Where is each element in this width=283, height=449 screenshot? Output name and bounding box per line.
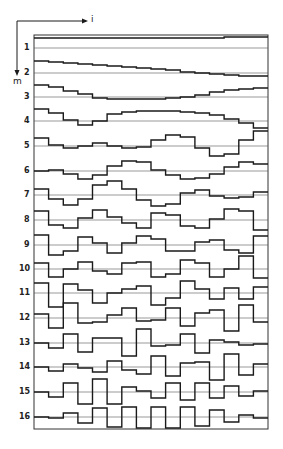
- step-curves: [34, 37, 268, 428]
- step-curve-row-16: [34, 407, 268, 428]
- step-curve-row-10: [34, 256, 268, 278]
- row-label-10: 10: [19, 264, 30, 273]
- row-label-6: 6: [24, 166, 30, 175]
- row-label-7: 7: [24, 190, 30, 199]
- step-curve-row-8: [34, 209, 268, 230]
- i-axis-arrowhead-icon: [82, 19, 88, 24]
- step-curve-row-5: [34, 131, 268, 156]
- row-label-2: 2: [24, 68, 30, 77]
- step-curve-row-2: [34, 61, 268, 76]
- row-label-1: 1: [24, 43, 30, 52]
- basis-functions-diagram: [0, 0, 283, 449]
- step-curve-row-13: [34, 329, 268, 356]
- row-label-14: 14: [19, 362, 30, 371]
- step-curve-row-12: [34, 303, 268, 331]
- row-label-4: 4: [24, 116, 30, 125]
- row-label-12: 12: [19, 313, 30, 322]
- row-label-3: 3: [24, 92, 30, 101]
- row-label-5: 5: [24, 141, 30, 150]
- row-label-16: 16: [19, 412, 30, 421]
- step-curve-row-15: [34, 379, 268, 404]
- row-label-9: 9: [24, 240, 30, 249]
- row-label-13: 13: [19, 338, 30, 347]
- step-curve-row-7: [34, 181, 268, 206]
- row-label-11: 11: [19, 288, 30, 297]
- step-curve-row-4: [34, 109, 268, 128]
- m-axis-label: m: [13, 76, 22, 86]
- i-axis-label: i: [91, 14, 94, 24]
- row-label-8: 8: [24, 215, 30, 224]
- step-curve-row-1: [34, 37, 268, 38]
- step-curve-row-6: [34, 161, 268, 179]
- row-label-15: 15: [19, 387, 30, 396]
